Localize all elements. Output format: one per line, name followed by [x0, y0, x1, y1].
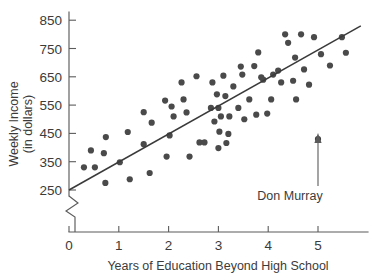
y-tick-label: 750 [39, 42, 62, 57]
y-axis-group: 250350450550650750850 [39, 12, 78, 232]
x-tick-label: 3 [215, 238, 223, 253]
data-point [239, 71, 245, 77]
data-point [223, 140, 229, 146]
don-murray-annotation: Don Murray [257, 133, 323, 203]
data-point [343, 50, 349, 56]
data-point [241, 116, 247, 122]
data-point [278, 79, 284, 85]
data-point [141, 109, 147, 115]
data-point [285, 40, 291, 46]
y-tick-label: 650 [39, 70, 62, 85]
data-point [238, 64, 244, 70]
data-point [298, 31, 304, 37]
data-point [92, 164, 98, 170]
y-tick-label: 350 [39, 155, 62, 170]
x-axis-group: 012345 [65, 226, 368, 253]
data-point [127, 176, 133, 182]
data-point [253, 112, 259, 118]
data-point [301, 66, 307, 72]
data-point [246, 96, 252, 102]
data-point [211, 118, 217, 124]
x-axis-tick-labels: 012345 [65, 238, 322, 253]
data-point [186, 154, 192, 160]
data-point [290, 78, 296, 84]
regression-line [69, 26, 361, 190]
annotation-label: Don Murray [257, 189, 323, 203]
data-point [180, 96, 186, 102]
y-tick-label: 850 [39, 13, 62, 28]
y-axis-title-line2: (in dollars) [21, 95, 35, 153]
data-point [226, 113, 232, 119]
data-point [235, 105, 241, 111]
data-point [125, 129, 131, 135]
data-point [220, 73, 226, 79]
scatter-plot-figure: 250350450550650750850 012345 Don Murray … [0, 0, 372, 277]
x-tick-label: 5 [314, 238, 322, 253]
y-axis-tick-labels: 250350450550650750850 [39, 13, 62, 198]
data-point [149, 120, 155, 126]
data-point [183, 109, 189, 115]
data-point [218, 113, 224, 119]
data-point [178, 79, 184, 85]
data-point [268, 96, 274, 102]
data-point [318, 51, 324, 57]
data-point [292, 54, 298, 60]
data-point [81, 164, 87, 170]
data-point [225, 131, 231, 137]
data-point [164, 154, 170, 160]
x-axis-ticks [69, 226, 318, 232]
data-point [170, 113, 176, 119]
data-point [230, 83, 236, 89]
data-point [103, 134, 109, 140]
data-point [327, 62, 333, 68]
x-tick-label: 2 [165, 238, 173, 253]
data-point [193, 73, 199, 79]
data-point [282, 31, 288, 37]
data-point [216, 129, 222, 135]
plot-svg: 250350450550650750850 012345 Don Murray … [0, 0, 372, 277]
data-point [251, 63, 257, 69]
x-tick-label: 4 [264, 238, 272, 253]
data-point [264, 110, 270, 116]
data-point [214, 91, 220, 97]
data-point [293, 96, 299, 102]
data-point [101, 150, 107, 156]
x-axis-title: Years of Education Beyond High School [107, 259, 328, 273]
data-point [255, 49, 261, 55]
data-point [215, 145, 221, 151]
y-axis-title-line1: Weekly Income [7, 81, 21, 166]
y-tick-label: 550 [39, 98, 62, 113]
y-axis-title-group: Weekly Income (in dollars) [7, 81, 35, 166]
y-tick-label: 250 [39, 183, 62, 198]
x-tick-label: 1 [115, 238, 123, 253]
data-point [201, 139, 207, 145]
data-point [311, 34, 317, 40]
x-tick-label: 0 [65, 238, 73, 253]
data-point [168, 103, 174, 109]
y-tick-label: 450 [39, 126, 62, 141]
data-point [209, 79, 215, 85]
data-point [306, 82, 312, 88]
data-point [102, 180, 108, 186]
y-axis-ticks [69, 20, 76, 190]
data-point [147, 170, 153, 176]
data-point [88, 147, 94, 153]
data-point [222, 93, 228, 99]
y-axis-break-zigzag [66, 196, 78, 232]
data-point [162, 97, 168, 103]
